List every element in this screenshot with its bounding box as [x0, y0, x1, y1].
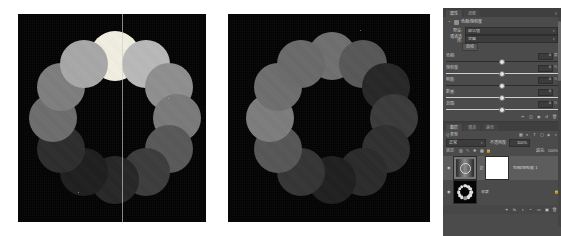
tab-properties[interactable]: 属性 — [446, 10, 462, 17]
lock-icons: ▨✎✥▩🔒 — [458, 149, 491, 154]
circle-swatch — [277, 40, 325, 88]
slider-track[interactable] — [446, 71, 558, 76]
pixel-icon[interactable]: ▦ — [518, 133, 523, 138]
preset-label: 预设: — [446, 29, 462, 33]
eye-icon[interactable]: ◉ — [445, 166, 451, 170]
slider-row: 明度:0% — [443, 76, 561, 88]
right-image-canvas[interactable] — [228, 14, 430, 222]
fill-value[interactable]: 100% — [548, 149, 558, 153]
channel-row: 通道选择: 全图 ▾ — [443, 35, 561, 43]
slider-row: 饱和度:0% — [443, 64, 561, 76]
speck — [168, 98, 169, 99]
slider-handle[interactable] — [499, 71, 505, 77]
ring-image-thumbnail[interactable] — [453, 180, 477, 204]
slider-track[interactable] — [446, 107, 558, 112]
adjustment-title: 色相/饱和度 — [461, 20, 482, 24]
lock-row: 锁定: ▨✎✥▩🔒 填充: 100% — [443, 147, 561, 155]
slider-label: 数量: — [446, 90, 455, 94]
adjustment-footer-icons: ✑◫◉↺🗑 — [443, 112, 561, 121]
slider-label: 范围: — [446, 102, 455, 106]
lock-move-icon[interactable]: ✥ — [472, 149, 477, 154]
slider-group: 色相:0度饱和度:0%明度:0%数量:0范围:0% — [443, 52, 561, 112]
layer-name: 色相/饱和度 1 — [511, 166, 552, 170]
preset-select[interactable]: 默认值 ▾ — [465, 27, 558, 35]
text-icon[interactable]: T — [532, 133, 537, 138]
reset-icon[interactable]: ↺ — [544, 114, 549, 119]
eye-icon[interactable]: ◉ — [445, 190, 451, 194]
auto-row: 自动 — [443, 43, 561, 52]
vertical-guide-line[interactable] — [122, 14, 123, 222]
channel-value: 全图 — [468, 37, 476, 41]
chevron-down-icon: ▾ — [553, 30, 555, 33]
new-layer-icon[interactable]: ▣ — [544, 207, 549, 212]
layers-tabbar: 图层 通道 路径 — [443, 122, 561, 131]
clip-icon[interactable]: ◫ — [528, 114, 533, 119]
delete-layer-icon[interactable]: 🗑 — [552, 207, 557, 212]
layer-row[interactable]: ◉⛓色相/饱和度 1 — [443, 156, 561, 180]
opacity-value[interactable]: 100% — [509, 139, 530, 147]
slider-track[interactable] — [446, 95, 558, 100]
tab-layers[interactable]: 图层 — [446, 124, 462, 131]
fill-label: 填充: — [536, 149, 545, 153]
preset-icon — [454, 20, 459, 25]
speck — [360, 30, 361, 31]
slider-handle[interactable] — [499, 95, 505, 101]
eyedropper-icon[interactable]: ✑ — [520, 114, 525, 119]
lock-transparency-icon[interactable]: ▨ — [458, 149, 463, 154]
chevron-down-icon: ▾ — [481, 142, 483, 145]
screenshot-root: 属性 调整 ≡ ◔ 色相/饱和度 预设: 默认值 ▾ 通道选择: 全图 ▾ — [0, 0, 561, 236]
properties-tabbar: 属性 调整 ≡ — [443, 8, 561, 17]
channel-select[interactable]: 全图 ▾ — [465, 35, 558, 43]
slider-handle[interactable] — [499, 83, 505, 89]
link-icon[interactable]: ⛓ — [479, 166, 483, 170]
left-image-canvas[interactable] — [18, 14, 206, 222]
slider-row: 数量:0 — [443, 88, 561, 100]
slider-handle[interactable] — [499, 59, 505, 65]
slider-handle[interactable] — [499, 107, 505, 113]
lock-brush-icon[interactable]: ✎ — [465, 149, 470, 154]
layers-bottom-toolbar: ⚭fx◑•▭▣🗑 — [443, 205, 561, 214]
smart-icon[interactable]: ◈ — [546, 133, 551, 138]
adjustment-icon: ◔ — [446, 19, 452, 25]
layer-list: ◉⛓色相/饱和度 1◉背景🔒 — [443, 155, 561, 205]
layer-filter-label: Q 类型 — [446, 133, 458, 137]
tab-paths[interactable]: 路径 — [482, 124, 498, 131]
layer-name: 背景 — [479, 190, 552, 194]
layer-filter-row: Q 类型 ▦◐T▢◈◑ — [443, 131, 561, 139]
shape-icon[interactable]: ▢ — [539, 133, 544, 138]
layer-filter-icons: ▦◐T▢◈◑ — [518, 133, 558, 138]
link-layers-icon[interactable]: ⚭ — [504, 207, 509, 212]
delete-icon[interactable]: 🗑 — [552, 114, 557, 119]
adjustment-header: ◔ 色相/饱和度 — [443, 17, 561, 27]
layer-row[interactable]: ◉背景🔒 — [443, 180, 561, 204]
slider-label: 色相: — [446, 54, 455, 58]
slider-track[interactable] — [446, 83, 558, 88]
opacity-label: 不透明度: — [490, 141, 507, 145]
slider-track[interactable] — [446, 59, 558, 64]
panel-menu-icon[interactable]: ≡ — [554, 12, 558, 16]
lock-all-icon[interactable]: 🔒 — [486, 149, 491, 154]
adjustment-icon[interactable]: • — [528, 207, 533, 212]
channel-label: 通道选择: — [446, 35, 462, 43]
preset-value: 默认值 — [468, 29, 480, 33]
tab-channels[interactable]: 通道 — [464, 124, 480, 131]
mask-icon[interactable]: ◑ — [520, 207, 525, 212]
blend-row: 正常 ▾ 不透明度: 100% — [443, 139, 561, 147]
layer-mask-thumbnail[interactable] — [485, 156, 509, 180]
slider-row: 色相:0度 — [443, 52, 561, 64]
blend-mode-value: 正常 — [449, 141, 457, 145]
circle-swatch — [60, 40, 108, 88]
tab-adjustments[interactable]: 调整 — [464, 10, 480, 17]
fx-icon[interactable]: fx — [512, 207, 517, 212]
photoshop-panel: 属性 调整 ≡ ◔ 色相/饱和度 预设: 默认值 ▾ 通道选择: 全图 ▾ — [443, 8, 561, 236]
blend-mode-select[interactable]: 正常 ▾ — [446, 139, 486, 147]
gradient-map-thumbnail[interactable] — [453, 156, 477, 180]
lock-nest-icon[interactable]: ▩ — [479, 149, 484, 154]
lock-label: 锁定: — [446, 149, 455, 153]
slider-label: 饱和度: — [446, 66, 459, 70]
adjust-icon[interactable]: ◐ — [525, 133, 530, 138]
auto-button[interactable]: 自动 — [462, 43, 478, 51]
slider-row: 范围:0% — [443, 100, 561, 112]
eye-icon[interactable]: ◉ — [536, 114, 541, 119]
group-icon[interactable]: ▭ — [536, 207, 541, 212]
